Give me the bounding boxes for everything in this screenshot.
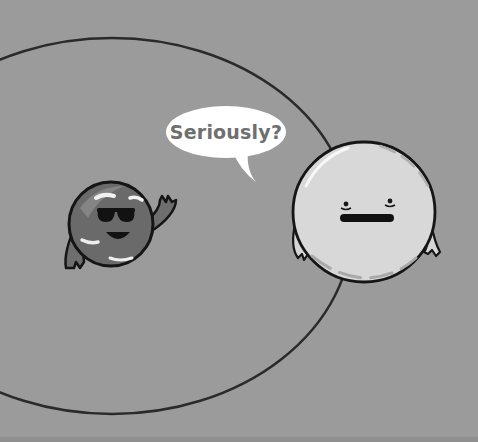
comic-panel: Seriously?	[0, 0, 478, 442]
large-planet	[293, 142, 440, 282]
bottom-edge	[0, 437, 478, 442]
flat-mouth	[340, 214, 394, 222]
small-planet	[65, 182, 176, 268]
illustration	[0, 0, 478, 442]
speech-bubble-text: Seriously?	[166, 112, 286, 152]
